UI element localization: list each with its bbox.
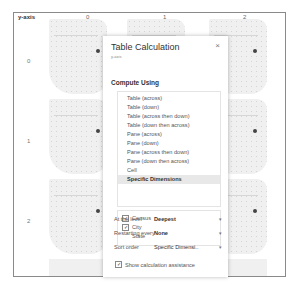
dialog-title: Table Calculation — [111, 42, 180, 52]
at-level-row: At the level Deepest ▾ — [114, 213, 222, 224]
row-label-1: 1 — [27, 138, 30, 144]
compute-option-pane-across-then-down[interactable]: Pane (across then down) — [118, 148, 220, 157]
show-calculation-assistance[interactable]: ✓ Show calculation assistance — [115, 261, 195, 268]
restarting-dropdown[interactable]: None ▾ — [154, 230, 222, 236]
compute-option-cell[interactable]: Cell — [118, 166, 220, 175]
close-icon[interactable]: × — [215, 41, 220, 50]
table-calculation-dialog: Table Calculation y-axis × Compute Using… — [103, 36, 228, 277]
map-mark[interactable] — [96, 129, 100, 133]
map-thumbnail — [49, 259, 107, 277]
map-thumbnail[interactable] — [49, 19, 107, 94]
chevron-down-icon: ▾ — [219, 230, 222, 236]
at-level-label: At the level — [114, 216, 154, 222]
chevron-down-icon: ▾ — [219, 216, 222, 222]
compute-option-table-down[interactable]: Table (down) — [118, 103, 220, 112]
checkbox-show-assistance[interactable]: ✓ — [115, 261, 122, 268]
compute-using-list[interactable]: Table (across) Table (down) Table (acros… — [117, 91, 221, 207]
map-mark[interactable] — [96, 209, 100, 213]
map-mark[interactable] — [253, 209, 257, 213]
compute-option-specific-dimensions[interactable]: Specific Dimensions — [118, 175, 220, 184]
show-assistance-label: Show calculation assistance — [125, 262, 195, 268]
at-level-dropdown[interactable]: Deepest ▾ — [154, 216, 222, 222]
sort-order-dropdown[interactable]: Specific Dimensi.. ▾ — [154, 244, 222, 250]
compute-option-table-across[interactable]: Table (across) — [118, 94, 220, 103]
at-level-value: Deepest — [154, 216, 176, 222]
sort-order-row: Sort order Specific Dimensi.. ▾ — [114, 241, 222, 252]
axis-title: y-axis — [18, 14, 35, 20]
compute-option-pane-down[interactable]: Pane (down) — [118, 139, 220, 148]
restarting-row: Restarting every None ▾ — [114, 227, 222, 238]
map-mark[interactable] — [96, 49, 100, 53]
map-mark[interactable] — [253, 129, 257, 133]
map-mark[interactable] — [253, 49, 257, 53]
restarting-value: None — [154, 230, 168, 236]
map-thumbnail[interactable] — [49, 179, 107, 254]
compute-option-pane-across[interactable]: Pane (across) — [118, 130, 220, 139]
compute-option-table-down-then-across[interactable]: Table (down then across) — [118, 121, 220, 130]
row-label-0: 0 — [27, 58, 30, 64]
chevron-down-icon: ▾ — [219, 244, 222, 250]
compute-using-heading: Compute Using — [111, 79, 159, 86]
sort-order-label: Sort order — [114, 244, 154, 250]
compute-option-table-across-then-down[interactable]: Table (across then down) — [118, 112, 220, 121]
map-thumbnail[interactable] — [49, 99, 107, 174]
dialog-subtitle: y-axis — [111, 54, 121, 59]
sort-order-value: Specific Dimensi.. — [154, 244, 198, 250]
row-label-2: 2 — [27, 218, 30, 224]
compute-option-pane-down-then-across[interactable]: Pane (down then across) — [118, 157, 220, 166]
restarting-label: Restarting every — [114, 230, 154, 236]
